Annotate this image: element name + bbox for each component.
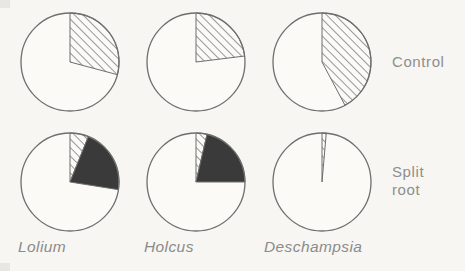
- pie-chart-lolium-control: [15, 7, 125, 117]
- pie-chart-deschampsia-control: [267, 7, 377, 117]
- row-label-split-root: Split root: [392, 163, 424, 199]
- page-corner-mark-top-left: [0, 0, 10, 8]
- pie-slice-hatched: [196, 13, 245, 62]
- pie-svg-holcus-split-root: [141, 127, 251, 237]
- pie-chart-holcus-split-root: [141, 127, 251, 237]
- pie-chart-lolium-split-root: [15, 127, 125, 237]
- pie-svg-deschampsia-control: [267, 7, 377, 117]
- species-label-holcus: Holcus: [144, 238, 194, 256]
- pie-svg-lolium-control: [15, 7, 125, 117]
- pie-chart-holcus-control: [141, 7, 251, 117]
- page-corner-mark-bottom-left: [0, 263, 10, 271]
- species-label-lolium: Lolium: [18, 238, 66, 256]
- pie-svg-holcus-control: [141, 7, 251, 117]
- pie-chart-figure: Control Split root Lolium Holcus Descham…: [0, 0, 465, 271]
- species-label-deschampsia: Deschampsia: [264, 238, 362, 256]
- pie-svg-lolium-split-root: [15, 127, 125, 237]
- pie-svg-deschampsia-split-root: [267, 127, 377, 237]
- pie-chart-deschampsia-split-root: [267, 127, 377, 237]
- row-label-control: Control: [392, 53, 445, 71]
